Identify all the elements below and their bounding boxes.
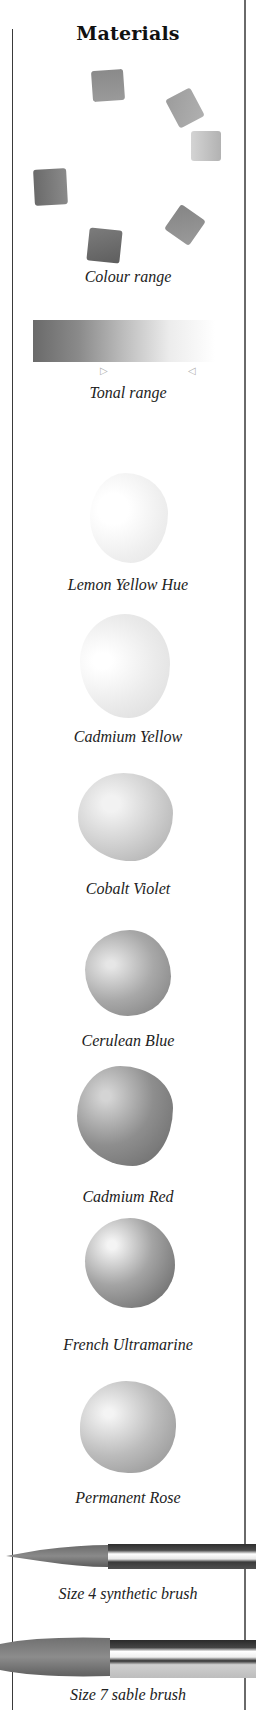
paint-label: Permanent Rose <box>12 1489 244 1507</box>
brush-label: Size 4 synthetic brush <box>12 1585 244 1603</box>
paint-label: Cerulean Blue <box>12 1032 244 1050</box>
tonal-range-caption: Tonal range <box>12 384 244 402</box>
paint-label: Cadmium Red <box>12 1188 244 1206</box>
tonal-marker-right-icon: ▷ <box>100 365 108 376</box>
colour-swatch-bottom <box>86 227 122 263</box>
paint-label: French Ultramarine <box>12 1336 244 1354</box>
sable-brush-image <box>0 1634 256 1682</box>
paint-swatch-cadmium-yellow <box>80 614 170 718</box>
paint-label: Cobalt Violet <box>12 880 244 898</box>
colour-swatch-lower-right <box>164 204 206 246</box>
colour-range-caption: Colour range <box>12 268 244 286</box>
brush-label: Size 7 sable brush <box>12 1686 244 1704</box>
paint-swatch-cerulean-blue <box>85 930 171 1016</box>
paint-label: Cadmium Yellow <box>12 728 244 746</box>
colour-swatch-top <box>91 69 125 102</box>
paint-swatch-cobalt-violet <box>78 773 173 861</box>
tonal-gradient-bar <box>33 320 215 362</box>
paint-label: Lemon Yellow Hue <box>12 576 244 594</box>
paint-swatch-permanent-rose <box>80 1381 176 1473</box>
paint-swatch-cadmium-red <box>77 1066 173 1166</box>
synthetic-brush-image <box>0 1540 256 1576</box>
page-title: Materials <box>0 22 256 44</box>
tonal-marker-left-icon: ◁ <box>188 365 196 376</box>
colour-swatch-right <box>191 131 221 161</box>
colour-swatch-upper-right <box>165 87 205 128</box>
paint-swatch-french-ultramarine <box>85 1218 175 1308</box>
paint-swatch-lemon-yellow-hue <box>90 473 168 563</box>
right-rule <box>244 0 246 1710</box>
colour-swatch-left <box>33 168 68 206</box>
